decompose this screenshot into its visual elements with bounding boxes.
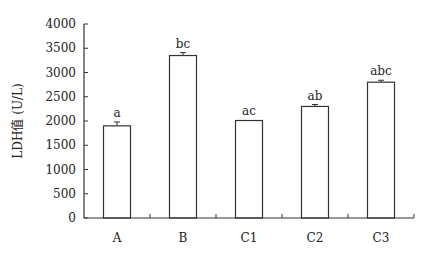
significance-label: bc <box>176 37 191 51</box>
y-axis-ticks: 05001000150020002500300035004000 <box>45 17 88 225</box>
x-axis-labels: ABC1C2C3 <box>112 214 414 245</box>
y-tick-label: 1000 <box>45 163 76 177</box>
y-tick-label: 3000 <box>45 66 76 80</box>
x-tick-label: C1 <box>241 231 258 245</box>
significance-label: ab <box>308 89 323 103</box>
significance-label: abc <box>370 64 392 78</box>
y-tick-label: 2500 <box>45 90 76 104</box>
y-axis-label: LDH值 (U/L) <box>10 83 25 158</box>
bar-chart: 05001000150020002500300035004000 abcacab… <box>0 0 438 258</box>
significance-label: ac <box>242 104 256 118</box>
bar-c3 <box>368 82 395 218</box>
bar-c2 <box>302 106 329 218</box>
bar-b <box>170 56 197 218</box>
y-tick-label: 4000 <box>45 17 76 31</box>
y-tick-label: 1500 <box>45 138 76 152</box>
bar-c1 <box>236 121 263 218</box>
significance-label: a <box>113 106 120 120</box>
x-tick-label: B <box>179 231 188 245</box>
y-tick-label: 3500 <box>45 41 76 55</box>
bars: abcacababc <box>104 37 395 218</box>
bar-a <box>104 126 131 218</box>
x-tick-label: C2 <box>307 231 324 245</box>
y-tick-label: 0 <box>68 211 76 225</box>
x-tick-label: C3 <box>373 231 390 245</box>
y-tick-label: 2000 <box>45 114 76 128</box>
x-tick-label: A <box>112 231 122 245</box>
y-tick-label: 500 <box>53 187 76 201</box>
